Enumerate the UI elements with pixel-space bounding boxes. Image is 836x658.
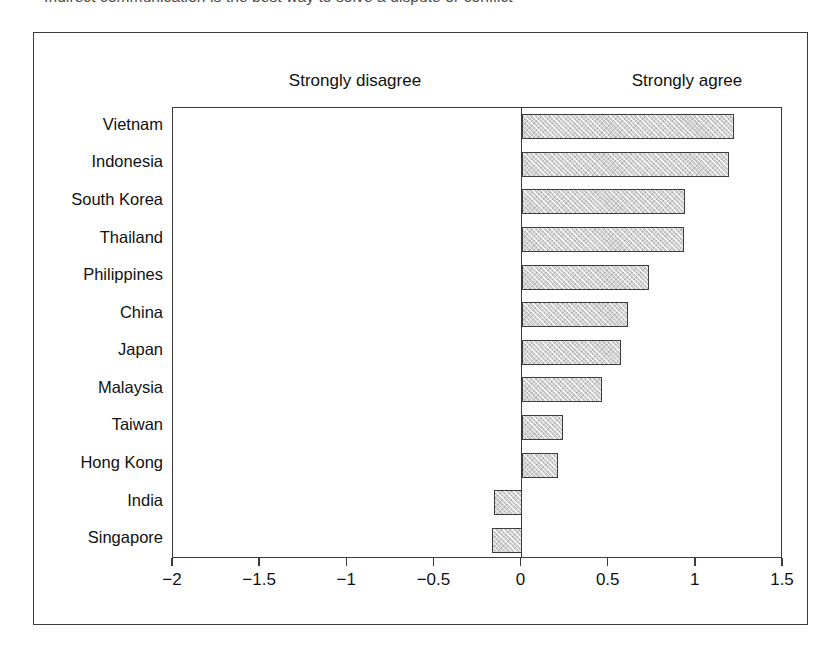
bar [492,528,522,553]
bar [522,302,628,327]
bar [522,340,621,365]
x-tick-mark [520,558,521,566]
bar [522,152,729,177]
bar [494,490,522,515]
category-label: Thailand [28,228,163,247]
x-tick-label: 1.5 [752,570,812,590]
category-label: Indonesia [28,152,163,171]
category-label: Vietnam [28,115,163,134]
x-tick-mark [781,558,782,566]
bar [522,377,602,402]
category-axis: VietnamIndonesiaSouth KoreaThailandPhili… [25,107,163,558]
plot-area [172,107,782,558]
bar [522,189,686,214]
x-tick-mark [346,558,347,566]
category-label: South Korea [28,190,163,209]
x-tick-label: −2 [142,570,202,590]
x-axis: −2−1.5−1−0.500.511.5 [172,558,782,604]
x-tick-mark [607,558,608,566]
category-label: Taiwan [28,415,163,434]
x-tick-label: −1 [316,570,376,590]
x-tick-mark [171,558,172,566]
x-tick-mark [258,558,259,566]
bar [522,114,735,139]
figure-caption: Indirect communication is the best way t… [0,0,836,14]
pole-label-agree: Strongly agree [522,71,836,91]
category-label: India [28,491,163,510]
x-tick-label: −0.5 [403,570,463,590]
pole-label-disagree: Strongly disagree [190,71,520,91]
bar [522,265,649,290]
x-tick-mark [433,558,434,566]
x-tick-label: 0.5 [578,570,638,590]
bar [522,227,684,252]
category-label: Japan [28,340,163,359]
x-tick-label: 0 [491,570,551,590]
category-label: China [28,303,163,322]
bar [522,415,564,440]
x-tick-mark [694,558,695,566]
x-tick-label: 1 [665,570,725,590]
figure-caption-text: Indirect communication is the best way t… [44,0,513,7]
bar [522,453,559,478]
category-label: Singapore [28,528,163,547]
category-label: Hong Kong [28,453,163,472]
x-tick-label: −1.5 [229,570,289,590]
category-label: Malaysia [28,378,163,397]
category-label: Philippines [28,265,163,284]
